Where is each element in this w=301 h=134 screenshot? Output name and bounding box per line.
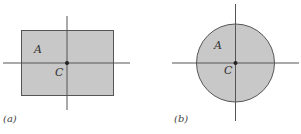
panel-b: A C (b) (172, 4, 299, 124)
area-label: A (213, 39, 222, 52)
centroid-label: C (55, 66, 64, 79)
centroid-dot (234, 61, 238, 65)
area-label: A (33, 43, 42, 56)
centroid-dot (65, 61, 69, 65)
figure-canvas: A C (a) A C (b) (0, 0, 301, 134)
panel-a: A C (a) (3, 16, 130, 124)
panel-caption: (b) (174, 113, 188, 124)
panel-caption: (a) (3, 113, 17, 124)
centroid-label: C (224, 64, 233, 77)
